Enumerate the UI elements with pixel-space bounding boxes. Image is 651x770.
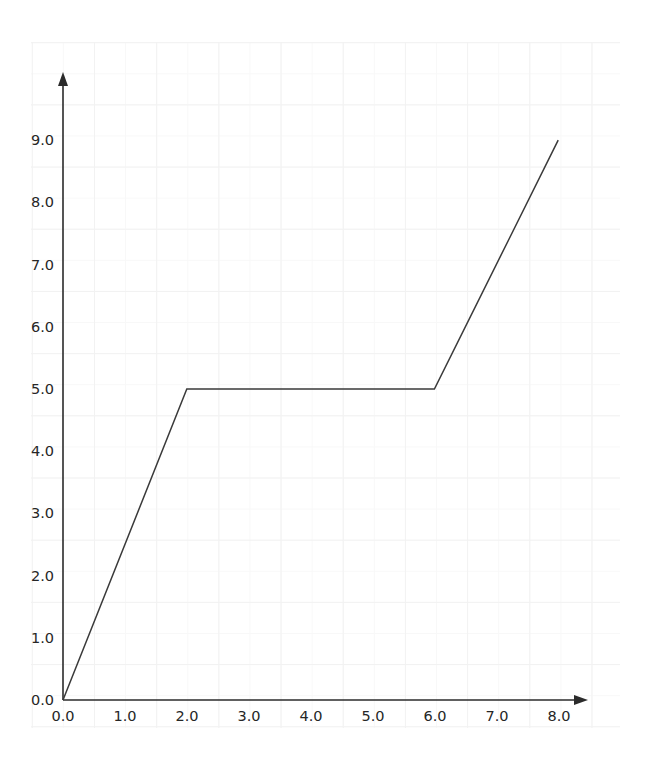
y-tick-label-5: 5.0 <box>20 382 54 397</box>
x-tick-label-7: 7.0 <box>485 709 508 724</box>
y-tick-label-6: 6.0 <box>20 320 54 335</box>
x-tick-label-2: 2.0 <box>175 709 198 724</box>
x-tick-label-4: 4.0 <box>299 709 322 724</box>
x-tick-label-3: 3.0 <box>237 709 260 724</box>
y-tick-label-4: 4.0 <box>20 444 54 459</box>
plot-grid <box>31 42 620 728</box>
y-tick-label-2: 2.0 <box>20 569 54 584</box>
x-tick-label-0: 0.0 <box>51 709 74 724</box>
y-tick-label-8: 8.0 <box>20 195 54 210</box>
x-tick-label-6: 6.0 <box>423 709 446 724</box>
y-tick-label-7: 7.0 <box>20 258 54 273</box>
x-tick-label-5: 5.0 <box>361 709 384 724</box>
y-tick-label-1: 1.0 <box>20 631 54 646</box>
y-tick-label-3: 3.0 <box>20 506 54 521</box>
y-tick-label-0: 0.0 <box>20 693 54 708</box>
x-tick-label-1: 1.0 <box>113 709 136 724</box>
y-tick-label-9: 9.0 <box>20 133 54 148</box>
chart-figure: 0.0 1.0 2.0 3.0 4.0 5.0 6.0 7.0 8.0 0.0 … <box>0 0 651 770</box>
x-tick-label-8: 8.0 <box>547 709 570 724</box>
